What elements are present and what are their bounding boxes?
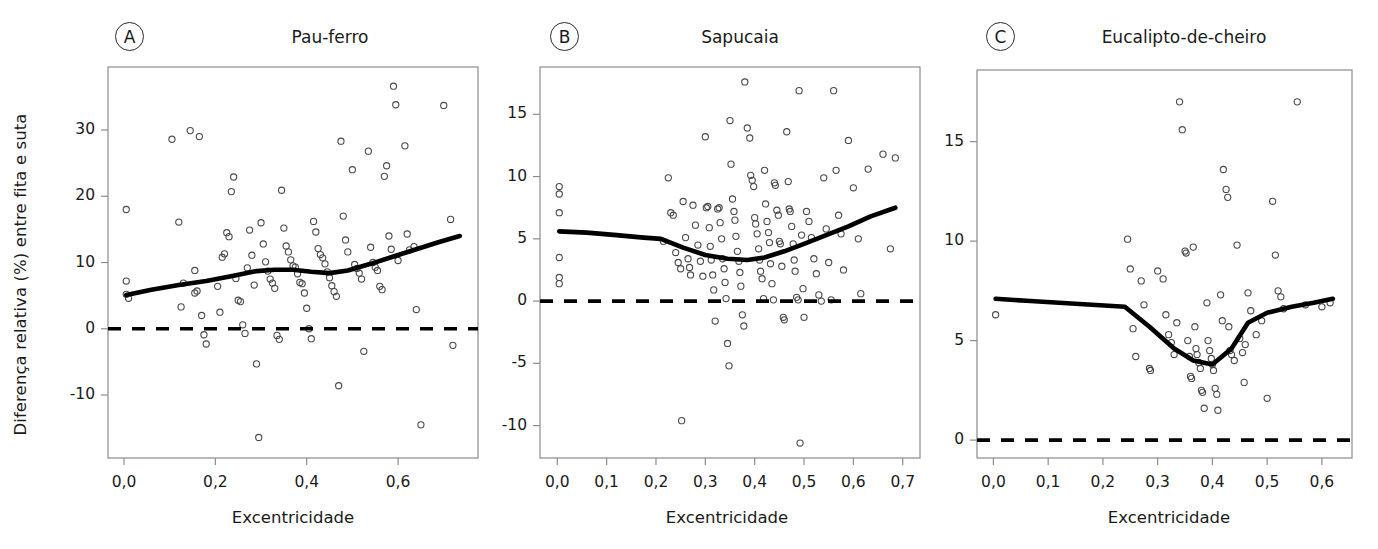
data-point <box>840 267 846 273</box>
y-tick-label: -5 <box>481 353 527 371</box>
data-point <box>789 223 795 229</box>
data-point <box>1133 353 1139 359</box>
data-point <box>340 213 346 219</box>
data-point <box>192 267 198 273</box>
data-point <box>797 440 803 446</box>
data-point <box>702 134 708 140</box>
data-point <box>199 312 205 318</box>
x-tick-label: 0,4 <box>277 473 337 491</box>
data-point <box>384 163 390 169</box>
data-point <box>723 296 729 302</box>
data-point <box>818 298 824 304</box>
data-point <box>865 166 871 172</box>
data-point <box>1218 292 1224 298</box>
data-point <box>1275 288 1281 294</box>
y-tick-label: 15 <box>481 104 527 122</box>
data-point <box>738 283 744 289</box>
data-point <box>747 135 753 141</box>
data-point <box>313 229 319 235</box>
data-point <box>707 243 713 249</box>
data-point <box>712 318 718 324</box>
data-point <box>813 271 819 277</box>
data-point <box>1242 341 1248 347</box>
data-point <box>361 348 367 354</box>
data-point <box>762 201 768 207</box>
data-point <box>244 265 250 271</box>
data-point <box>724 340 730 346</box>
data-point <box>710 272 716 278</box>
data-point <box>441 102 447 108</box>
panel-b: B Sapucaia Excentricidade -10-50510150,0… <box>490 0 934 549</box>
data-point <box>687 272 693 278</box>
data-point <box>281 225 287 231</box>
data-point <box>310 218 316 224</box>
data-point <box>308 336 314 342</box>
data-point <box>390 83 396 89</box>
data-point <box>393 102 399 108</box>
y-tick-label: 10 <box>918 231 964 249</box>
data-point <box>728 161 734 167</box>
data-point <box>892 155 898 161</box>
data-point <box>1278 294 1284 300</box>
data-point <box>1253 332 1259 338</box>
data-point <box>722 279 728 285</box>
data-point <box>1197 365 1203 371</box>
data-point <box>556 274 562 280</box>
data-point <box>413 306 419 312</box>
data-point <box>887 246 893 252</box>
data-point <box>792 268 798 274</box>
data-point <box>731 208 737 214</box>
data-point <box>1205 338 1211 344</box>
data-point <box>1176 99 1182 105</box>
data-point <box>741 323 747 329</box>
data-point <box>336 383 342 389</box>
data-point <box>766 239 772 245</box>
data-point <box>1141 302 1147 308</box>
data-point <box>201 332 207 338</box>
data-point <box>752 215 758 221</box>
data-point <box>1166 332 1172 338</box>
data-point <box>716 205 722 211</box>
data-point <box>816 292 822 298</box>
data-point <box>1212 385 1218 391</box>
panel-c: C Eucalipto-de-cheiro Excentricidade 051… <box>934 0 1378 549</box>
data-point <box>178 304 184 310</box>
data-point <box>556 183 562 189</box>
data-point <box>880 151 886 157</box>
data-point <box>685 256 691 262</box>
data-point <box>751 183 757 189</box>
data-point <box>247 227 253 233</box>
data-point <box>798 232 804 238</box>
data-point <box>675 259 681 265</box>
x-tick-label: 0,7 <box>873 473 933 491</box>
data-point <box>1179 127 1185 133</box>
data-point <box>700 273 706 279</box>
data-point <box>727 117 733 123</box>
data-point <box>368 244 374 250</box>
data-point <box>801 314 807 320</box>
data-point <box>123 206 129 212</box>
data-point <box>258 220 264 226</box>
data-point <box>758 268 764 274</box>
data-point <box>1226 324 1232 330</box>
y-tick-label: 0 <box>918 430 964 448</box>
data-point <box>785 178 791 184</box>
data-point <box>358 276 364 282</box>
data-point <box>342 237 348 243</box>
data-point <box>123 278 129 284</box>
panel-a-x-axis-label: Excentricidade <box>108 508 478 527</box>
panel-a-plot <box>0 0 490 549</box>
x-tick-label: 0,4 <box>1182 473 1242 491</box>
data-point <box>196 133 202 139</box>
data-point <box>761 167 767 173</box>
data-point <box>733 233 739 239</box>
data-point <box>365 148 371 154</box>
data-point <box>784 129 790 135</box>
data-point <box>1193 345 1199 351</box>
data-point <box>732 217 738 223</box>
data-point <box>678 266 684 272</box>
data-point <box>729 196 735 202</box>
data-point <box>556 210 562 216</box>
data-point <box>285 249 291 255</box>
data-point <box>721 266 727 272</box>
